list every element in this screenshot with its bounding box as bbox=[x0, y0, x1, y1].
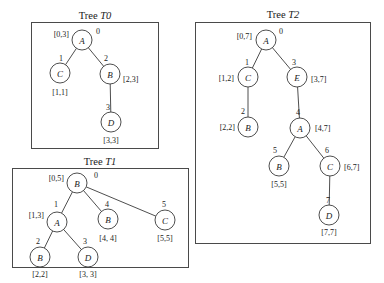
node-index-label: 2 bbox=[241, 107, 245, 116]
node-range-label: [4, 4] bbox=[99, 234, 117, 243]
node-letter-label: C bbox=[327, 162, 334, 172]
tree-panel-t2: Tree T2A0[0,7]C1[1,2]B2[2,2]E3[3,7]A4[4,… bbox=[196, 9, 371, 244]
panel-border bbox=[32, 23, 159, 149]
node-letter-label: B bbox=[245, 123, 251, 133]
tree-node[interactable]: B5[5,5] bbox=[269, 146, 289, 189]
node-range-label: [3, 3] bbox=[79, 270, 97, 279]
node-index-label: 0 bbox=[96, 27, 100, 36]
node-index-label: 7 bbox=[326, 196, 330, 205]
node-letter-label: B bbox=[105, 215, 111, 225]
node-range-label: [0,3] bbox=[54, 30, 70, 39]
tree-node[interactable]: C5[5,5] bbox=[155, 200, 175, 243]
tree-edge bbox=[64, 229, 82, 249]
node-range-label: [2,2] bbox=[32, 270, 48, 279]
node-letter-label: A bbox=[296, 124, 303, 134]
panel-title-name: T2 bbox=[288, 9, 300, 20]
node-letter-label: A bbox=[53, 218, 60, 228]
panel-title: Tree T0 bbox=[79, 10, 112, 21]
panels-layer: Tree T0A0[0,3]C1[1,1]B2[2,3]D3[3,3]Tree … bbox=[13, 9, 371, 279]
node-range-label: [1,1] bbox=[52, 88, 68, 97]
node-range-label: [2,3] bbox=[123, 75, 139, 84]
node-range-label: [1,3] bbox=[29, 211, 45, 220]
tree-node[interactable]: A0[0,3] bbox=[54, 27, 100, 51]
tree-edge bbox=[272, 48, 290, 70]
node-index-label: 3 bbox=[292, 58, 296, 67]
tree-figure: Tree T0A0[0,3]C1[1,1]B2[2,3]D3[3,3]Tree … bbox=[0, 0, 384, 283]
node-index-label: 1 bbox=[245, 58, 249, 67]
tree-node[interactable]: B0[0,5] bbox=[49, 171, 98, 194]
node-letter-label: B bbox=[37, 253, 43, 263]
tree-edge bbox=[84, 191, 102, 212]
node-range-label: [6,7] bbox=[344, 163, 360, 172]
panel-title: Tree T1 bbox=[84, 156, 117, 167]
node-letter-label: B bbox=[276, 162, 282, 172]
node-range-label: [0,7] bbox=[237, 32, 253, 41]
tree-node[interactable]: A4[4,7] bbox=[290, 108, 331, 139]
node-index-label: 4 bbox=[105, 200, 109, 209]
panel-title-prefix: Tree bbox=[267, 9, 289, 20]
tree-node[interactable]: C1[1,1] bbox=[50, 54, 70, 97]
node-letter-label: B bbox=[74, 179, 80, 189]
tree-node[interactable]: A1[1,3] bbox=[29, 200, 67, 233]
node-range-label: [5,5] bbox=[271, 180, 287, 189]
tree-panel-t0: Tree T0A0[0,3]C1[1,1]B2[2,3]D3[3,3] bbox=[32, 10, 159, 149]
node-range-label: [1,2] bbox=[219, 74, 235, 83]
tree-node[interactable]: B2[2,3] bbox=[100, 54, 139, 85]
tree-edge bbox=[62, 192, 73, 213]
tree-edge bbox=[88, 48, 103, 67]
tree-node[interactable]: D7[7,7] bbox=[319, 196, 339, 237]
node-index-label: 2 bbox=[104, 54, 108, 63]
node-index-label: 2 bbox=[36, 237, 40, 246]
node-index-label: 0 bbox=[94, 171, 98, 180]
node-range-label: [3,7] bbox=[311, 75, 327, 84]
panel-title-prefix: Tree bbox=[79, 10, 101, 21]
tree-node[interactable]: B4[4, 4] bbox=[98, 200, 118, 243]
node-range-label: [0,5] bbox=[49, 174, 65, 183]
tree-edge bbox=[252, 49, 261, 68]
node-index-label: 4 bbox=[296, 108, 300, 117]
tree-node[interactable]: C1[1,2] bbox=[219, 58, 258, 88]
tree-node[interactable]: B2[2,2] bbox=[220, 107, 258, 138]
tree-node[interactable]: A0[0,7] bbox=[237, 27, 283, 51]
tree-edge bbox=[86, 187, 156, 216]
tree-diagram-svg: Tree T0A0[0,3]C1[1,1]B2[2,3]D3[3,3]Tree … bbox=[0, 0, 384, 283]
node-index-label: 6 bbox=[325, 146, 329, 155]
node-range-label: [7,7] bbox=[321, 228, 337, 237]
tree-edge bbox=[306, 136, 324, 158]
node-range-label: [3,3] bbox=[103, 136, 119, 145]
node-letter-label: C bbox=[245, 73, 252, 83]
node-index-label: 3 bbox=[83, 237, 87, 246]
node-index-label: 1 bbox=[59, 54, 63, 63]
panel-title-name: T1 bbox=[105, 156, 116, 167]
tree-edge bbox=[44, 231, 52, 248]
panel-border bbox=[196, 23, 371, 244]
tree-edge bbox=[284, 137, 295, 157]
tree-edge bbox=[110, 84, 111, 112]
node-index-label: 5 bbox=[273, 146, 277, 155]
node-letter-label: D bbox=[84, 253, 92, 263]
panel-title-name: T0 bbox=[100, 10, 112, 21]
node-letter-label: E bbox=[293, 73, 300, 83]
tree-node[interactable]: C6[6,7] bbox=[320, 146, 360, 177]
panel-title: Tree T2 bbox=[267, 9, 300, 20]
node-range-label: [5,5] bbox=[157, 234, 173, 243]
node-letter-label: D bbox=[325, 211, 333, 221]
tree-node[interactable]: D3[3, 3] bbox=[78, 237, 98, 279]
node-index-label: 0 bbox=[279, 27, 283, 36]
tree-node[interactable]: E3[3,7] bbox=[287, 58, 327, 88]
node-range-label: [4,7] bbox=[315, 124, 331, 133]
node-letter-label: D bbox=[107, 118, 115, 128]
node-letter-label: A bbox=[78, 36, 85, 46]
node-index-label: 5 bbox=[162, 200, 166, 209]
node-letter-label: C bbox=[162, 216, 169, 226]
node-letter-label: A bbox=[262, 36, 269, 46]
node-range-label: [2,2] bbox=[220, 123, 236, 132]
tree-edge bbox=[66, 48, 77, 64]
node-letter-label: B bbox=[107, 70, 113, 80]
node-letter-label: C bbox=[57, 69, 64, 79]
node-index-label: 1 bbox=[54, 200, 58, 209]
panel-title-prefix: Tree bbox=[84, 156, 106, 167]
tree-panel-t1: Tree T1B0[0,5]A1[1,3]B2[2,2]D3[3, 3]B4[4… bbox=[13, 156, 189, 279]
node-index-label: 3 bbox=[106, 103, 110, 112]
